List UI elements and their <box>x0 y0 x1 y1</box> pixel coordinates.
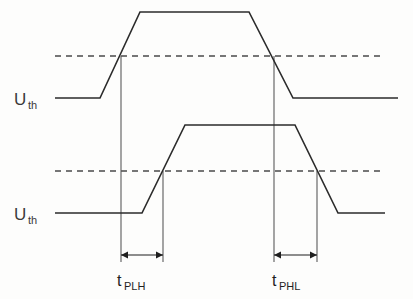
timing-diagram-canvas: U th U th t PLH t PHL <box>0 0 413 299</box>
output-threshold-label: U <box>14 205 26 224</box>
t-plh-label: t <box>117 272 122 289</box>
output-threshold-label-subscript: th <box>28 214 37 226</box>
input-threshold-label-subscript: th <box>28 99 37 111</box>
output-waveform <box>55 125 385 213</box>
t-phl-label: t <box>272 272 277 289</box>
t-phl-label-subscript: PHL <box>279 280 300 292</box>
input-waveform <box>55 12 398 98</box>
input-threshold-label: U <box>14 90 26 109</box>
timing-diagram-figure: U th U th t PLH t PHL <box>0 0 413 299</box>
t-plh-label-subscript: PLH <box>124 280 145 292</box>
